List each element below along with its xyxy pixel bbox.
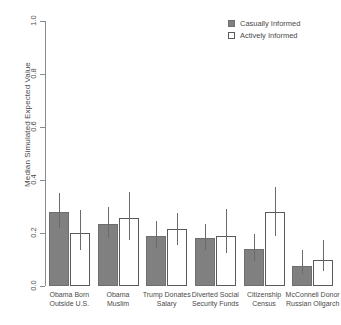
error-bar [129, 192, 130, 240]
legend-swatch-icon [228, 32, 235, 39]
error-bar [156, 221, 157, 248]
x-axis-label-line: Russian Oligarch [270, 299, 341, 308]
error-bar [205, 224, 206, 251]
error-bar [108, 207, 109, 239]
y-tick [40, 286, 45, 287]
y-tick-label: 0.2 [29, 222, 38, 244]
y-tick-label: 0.4 [29, 169, 38, 191]
error-bar [323, 240, 324, 272]
y-tick-label: 0.8 [29, 63, 38, 85]
legend-label: Casually Informed [240, 19, 300, 28]
legend-label: Actively Informed [240, 31, 298, 40]
legend-item-casually-informed: Casually Informed [228, 18, 300, 29]
legend-swatch-icon [228, 20, 235, 27]
error-bar [80, 210, 81, 250]
x-axis-label-line: McConnell Donor [270, 290, 341, 299]
legend-item-actively-informed: Actively Informed [228, 30, 300, 41]
error-bar [59, 193, 60, 227]
error-bar [177, 213, 178, 245]
chart-legend: Casually InformedActively Informed [228, 18, 300, 42]
plot-area [45, 21, 337, 286]
y-tick-label: 0.6 [29, 116, 38, 138]
error-bar [254, 234, 255, 261]
error-bar [302, 250, 303, 274]
error-bar [275, 187, 276, 236]
x-axis-label: McConnell DonorRussian Oligarch [270, 290, 341, 308]
chart-figure: Median Simulated Expected Value 0.00.20.… [0, 0, 341, 325]
error-bar [226, 209, 227, 253]
y-tick-label: 1.0 [29, 10, 38, 32]
